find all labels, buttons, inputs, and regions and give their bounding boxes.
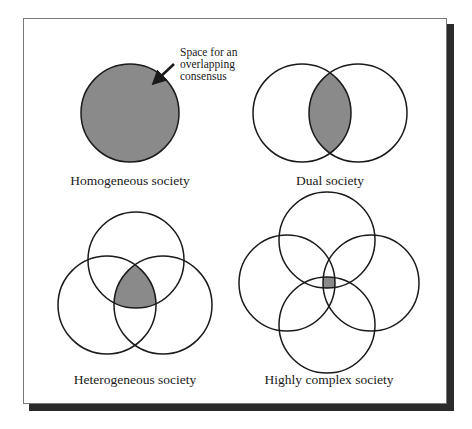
dual-diagram [253,64,407,162]
dual-label: Dual society [296,173,364,189]
annotation-line: Space for an [180,46,237,58]
society-circle [279,277,375,373]
homogeneous-label: Homogeneous society [70,173,190,189]
society-circle [239,235,335,331]
highly-complex-label: Highly complex society [265,372,394,388]
society-circle [323,235,419,331]
annotation-line: overlapping [180,58,237,70]
highly-complex-diagram [239,192,419,373]
arrow-icon [157,64,174,80]
heterogeneous-diagram [58,212,212,354]
heterogeneous-label: Heterogeneous society [74,372,197,388]
society-circle [81,64,179,162]
overlapping-consensus-annotation: Space for an overlapping consensus [180,46,237,82]
society-circle [279,192,375,288]
homogeneous-diagram [81,64,179,162]
annotation-line: consensus [180,70,237,82]
